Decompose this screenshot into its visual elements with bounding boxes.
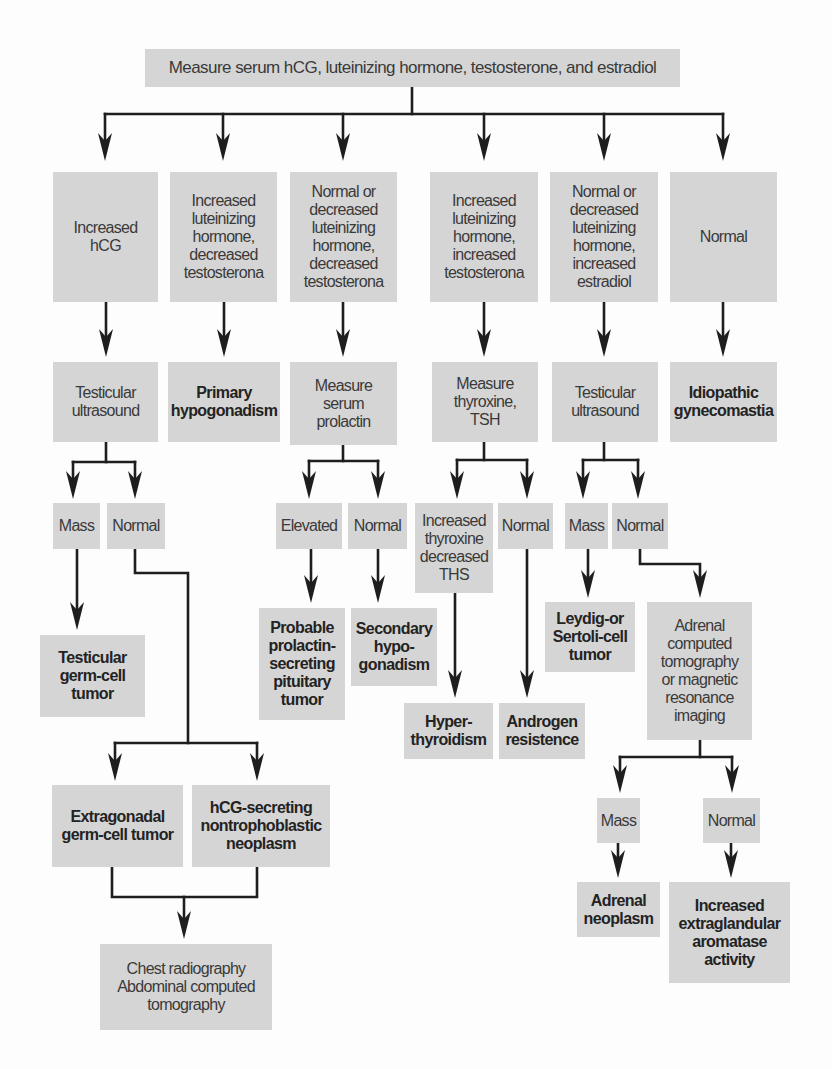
- primary-hypogonadism: Primary hypogonadism: [168, 362, 280, 442]
- extragonadal-germ-cell-tumor: Extragonadal germ-cell tumor: [52, 785, 183, 867]
- arrow-down-icon: [99, 329, 730, 357]
- testicular-ultrasound-2: Testicular ultrasound: [552, 362, 658, 442]
- measure-serum-prolactin: Measure serum prolactin: [290, 362, 397, 445]
- measure-thyroxine-tsh: Measure thyroxine, TSH: [432, 362, 538, 442]
- root-measure-hormones: Measure serum hCG, luteinizing hormone, …: [145, 49, 680, 87]
- finding-normal-lh-decreased-testosterone: Normal or decreased luteinizing hormone,…: [290, 172, 397, 302]
- c1-mass: Mass: [53, 503, 100, 549]
- prolactin-normal: Normal: [348, 503, 407, 549]
- increased-extraglandular-aromatase-activity: Increased extraglandular aromatase activ…: [669, 882, 790, 983]
- finding-increased-hcg: Increased hCG: [53, 172, 158, 302]
- thyroid-normal: Normal: [498, 503, 553, 549]
- idiopathic-gynecomastia: Idiopathic gynecomastia: [670, 362, 777, 442]
- prolactin-elevated: Elevated: [276, 503, 342, 549]
- gynecomastia-workup-flowchart: Measure serum hCG, luteinizing hormone, …: [0, 0, 832, 1069]
- finding-increased-lh-increased-testosterone: Increased luteinizing hormone, increased…: [430, 172, 538, 302]
- arrow-down-icon: [98, 133, 730, 161]
- chest-radiography-abdominal-ct: Chest radiography Abdominal computed tom…: [100, 944, 272, 1030]
- hyperthyroidism: Hyper- thyroidism: [404, 703, 493, 759]
- increased-thyroxine-decreased-ths: Increased thyroxine decreased THS: [415, 503, 493, 593]
- adrenal-mass: Mass: [597, 798, 640, 843]
- finding-normal: Normal: [670, 172, 777, 302]
- testicular-germ-cell-tumor: Testicular germ-cell tumor: [40, 635, 145, 717]
- hcg-secreting-nontrophoblastic-neoplasm: hCG-secreting nontrophoblastic neoplasm: [192, 785, 330, 867]
- leydig-sertoli-cell-tumor: Leydig-or Sertoli-cell tumor: [545, 602, 635, 672]
- finding-normal-lh-increased-estradiol: Normal or decreased luteinizing hormone,…: [550, 172, 658, 302]
- adrenal-normal: Normal: [703, 798, 760, 843]
- finding-increased-lh-decreased-testosterone: Increased luteinizing hormone, decreased…: [170, 172, 277, 302]
- testicular-ultrasound-1: Testicular ultrasound: [53, 362, 158, 442]
- adrenal-neoplasm: Adrenal neoplasm: [577, 882, 660, 937]
- c5-mass: Mass: [565, 503, 608, 549]
- c1-normal: Normal: [107, 503, 165, 549]
- prolactin-secreting-pituitary-tumor: Probable prolactin- secreting pituitary …: [259, 608, 345, 720]
- c5-normal: Normal: [612, 503, 668, 549]
- adrenal-ct-or-mri: Adrenal computed tomography or magnetic …: [647, 602, 752, 740]
- androgen-resistence: Androgen resistence: [499, 703, 585, 759]
- secondary-hypogonadism: Secondary hypo- gonadism: [351, 608, 437, 686]
